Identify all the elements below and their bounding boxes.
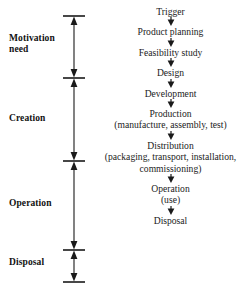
arrow-down-icon [165,38,177,47]
flow-step-distribution: Distribution (packaging, transport, inst… [98,140,243,174]
flow-step-product-planning: Product planning [98,26,243,37]
flow-step-operation: Operation (use) [98,183,243,206]
axis-span-operation [71,162,78,250]
arrow-down-icon [165,174,177,183]
flow-step-disposal: Disposal [98,215,243,226]
axis-span-motivation-need [71,17,78,78]
axis-span-creation [71,79,78,161]
stage-label-motivation-need: Motivation need [9,33,67,55]
arrow-down-icon [165,131,177,140]
arrow-down-icon [165,58,177,67]
lifecycle-flow-column: Trigger Product planning Feasibility stu… [98,6,243,226]
flow-step-design: Design [98,67,243,78]
arrow-down-icon [165,206,177,215]
arrow-down-icon [165,99,177,108]
flow-step-feasibility-study: Feasibility study [98,47,243,58]
arrow-down-icon [165,17,177,26]
axis-span-disposal [71,251,78,282]
lifecycle-diagram: Motivation need Creation Operation Dispo… [0,0,243,293]
flow-step-production: Production (manufacture, assembly, test) [98,108,243,131]
stage-label-creation: Creation [9,113,67,124]
flow-step-development: Development [98,88,243,99]
flow-step-trigger: Trigger [98,6,243,17]
stage-label-disposal: Disposal [9,257,67,268]
stage-label-operation: Operation [9,198,67,209]
arrow-down-icon [165,79,177,88]
